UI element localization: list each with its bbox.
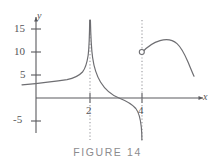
curve-branch-right bbox=[143, 40, 194, 77]
y-axis-label: y bbox=[37, 10, 41, 21]
x-axis-label: x bbox=[203, 91, 207, 102]
x-tick-label-4: 4 bbox=[138, 104, 144, 116]
y-tick-label-10: 10 bbox=[14, 45, 25, 57]
plot-area bbox=[0, 0, 215, 167]
figure-caption: FIGURE 14 bbox=[0, 146, 215, 158]
y-tick-label-15: 15 bbox=[14, 22, 25, 34]
x-tick-label-2: 2 bbox=[86, 104, 92, 116]
open-circle-discontinuity-icon bbox=[139, 50, 144, 55]
curve-branch-middle bbox=[90, 20, 141, 140]
y-tick-label-5: 5 bbox=[20, 68, 26, 80]
y-tick-label-neg5: -5 bbox=[13, 113, 22, 125]
figure-14-container: 15 10 5 -5 2 4 y x FIGURE 14 bbox=[0, 0, 215, 167]
